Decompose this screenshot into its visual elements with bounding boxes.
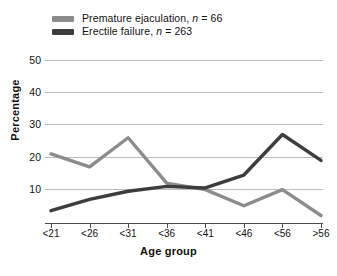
x-tick-1: <26 [70,228,110,239]
y-tick-50: 50 [3,55,41,65]
x-tick-7: >56 [301,228,337,239]
chart-container: Premature ejaculation, n = 66 Erectile f… [0,0,337,276]
x-tick-3: <36 [147,228,187,239]
x-tick-0: <21 [31,228,71,239]
y-axis-title: Percentage [9,65,21,155]
series-plot [45,58,323,224]
legend-label-erectile-failure: Erectile failure, n = 263 [82,25,192,38]
x-tick-4: <41 [185,228,225,239]
chart-legend: Premature ejaculation, n = 66 Erectile f… [52,12,222,38]
series-line-erectile-failure [51,135,321,211]
plot-area [45,58,323,224]
x-tick-5: <46 [224,228,264,239]
legend-swatch-erectile-failure [52,29,74,35]
legend-item-erectile-failure: Erectile failure, n = 263 [52,25,222,38]
x-tick-2: <31 [108,228,148,239]
legend-swatch-premature-ejaculation [52,16,74,22]
x-axis-title: Age group [0,245,337,257]
series-line-premature-ejaculation [51,138,321,216]
x-tick-6: <56 [262,228,302,239]
legend-label-premature-ejaculation: Premature ejaculation, n = 66 [82,12,222,25]
y-tick-10: 10 [3,184,41,194]
legend-item-premature-ejaculation: Premature ejaculation, n = 66 [52,12,222,25]
